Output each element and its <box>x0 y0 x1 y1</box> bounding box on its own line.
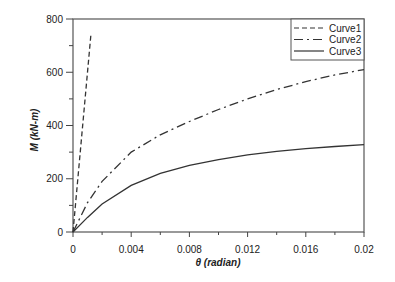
y-tick-label: 600 <box>46 67 63 78</box>
x-axis-title: θ (radian) <box>195 257 241 268</box>
chart: 0200400600800 00.0040.0080.0120.0160.02 … <box>0 0 395 282</box>
legend: Curve1Curve2Curve3 <box>291 19 364 60</box>
series-lines <box>73 34 364 232</box>
y-axis: 0200400600800 <box>46 14 73 238</box>
legend-item-curve2: Curve2 <box>329 34 362 45</box>
legend-item-curve1: Curve1 <box>329 23 362 34</box>
x-tick-label: 0.004 <box>119 244 144 255</box>
y-axis-title: M (kN-m) <box>29 108 40 151</box>
y-tick-label: 400 <box>46 120 63 131</box>
legend-item-curve3: Curve3 <box>329 46 362 57</box>
series-curve3 <box>73 145 364 232</box>
y-tick-label: 200 <box>46 173 63 184</box>
y-tick-label: 800 <box>46 14 63 25</box>
x-tick-label: 0.016 <box>293 244 318 255</box>
x-tick-label: 0 <box>70 244 76 255</box>
x-tick-label: 0.02 <box>354 244 374 255</box>
y-tick-label: 0 <box>57 227 63 238</box>
series-curve2 <box>73 70 364 232</box>
x-axis: 00.0040.0080.0120.0160.02 <box>70 232 374 255</box>
x-tick-label: 0.012 <box>235 244 260 255</box>
x-tick-label: 0.008 <box>177 244 202 255</box>
